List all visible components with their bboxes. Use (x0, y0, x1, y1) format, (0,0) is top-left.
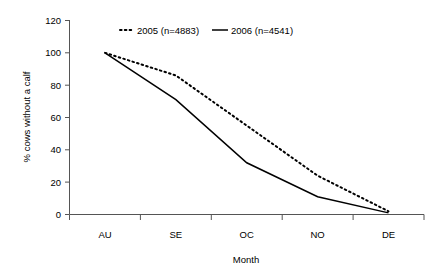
line-chart: 120 100 80 60 40 20 0 % cows without a c… (0, 0, 446, 279)
x-category-label-oc: OC (240, 229, 254, 240)
x-category-label-de: DE (382, 229, 395, 240)
x-category-label-se: SE (169, 229, 182, 240)
y-tick-label-60: 60 (50, 112, 61, 123)
y-tick-label-80: 80 (50, 80, 61, 91)
x-axis-ticks (70, 215, 425, 221)
x-axis-title: Month (233, 254, 259, 265)
y-tick-label-100: 100 (45, 47, 61, 58)
chart-container: 120 100 80 60 40 20 0 % cows without a c… (0, 0, 446, 279)
legend-label-2005: 2005 (n=4883) (137, 25, 199, 36)
legend: 2005 (n=4883) 2006 (n=4541) (120, 25, 293, 36)
legend-label-2006: 2006 (n=4541) (231, 25, 293, 36)
y-tick-label-20: 20 (50, 177, 61, 188)
y-axis-ticks (65, 21, 70, 215)
y-axis-title: % cows without a calf (21, 71, 32, 162)
y-tick-label-40: 40 (50, 144, 61, 155)
y-tick-label-0: 0 (56, 209, 61, 220)
x-category-label-au: AU (98, 229, 111, 240)
series-line-2005 (105, 53, 389, 211)
y-tick-label-120: 120 (45, 15, 61, 26)
x-category-label-no: NO (310, 229, 324, 240)
